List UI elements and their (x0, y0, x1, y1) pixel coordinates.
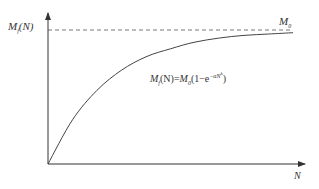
formula-lhs-rest: (N)= (160, 73, 180, 84)
formula-label: Mf(N)=M0(1−e−αNk) (150, 71, 226, 86)
y-axis-label: Mf(N) (8, 20, 34, 34)
x-axis-label: N (294, 170, 301, 181)
asymptote-label-sub: 0 (288, 23, 291, 29)
asymptote-label: M0 (279, 15, 291, 29)
growth-curve (48, 33, 293, 164)
formula-rhs: M (180, 73, 188, 84)
asymptote-label-main: M (279, 15, 288, 27)
chart-canvas (0, 0, 319, 189)
y-label-rest: (N) (19, 20, 34, 32)
formula-rhs-open: (1−e (191, 73, 209, 84)
y-label-main: M (8, 20, 17, 32)
formula-exponent: −αN (209, 73, 220, 79)
x-label: N (294, 170, 301, 181)
formula-rhs-close: ) (223, 73, 226, 84)
